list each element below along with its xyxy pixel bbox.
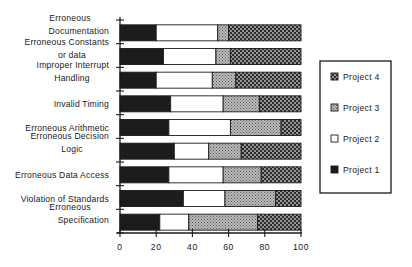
bar-row xyxy=(120,143,301,159)
legend-label: Project 4 xyxy=(343,72,380,82)
legend-label: Project 3 xyxy=(343,103,380,113)
bar-segment-project-3 xyxy=(230,120,281,136)
bar-segment-project-2 xyxy=(183,191,225,207)
bar-segment-project-4 xyxy=(230,49,301,65)
bar-segment-project-4 xyxy=(229,25,301,41)
x-tick-label: 60 xyxy=(223,242,234,252)
category-label: Handling xyxy=(54,73,90,83)
x-tick-label: 100 xyxy=(293,242,309,252)
x-tick-label: 40 xyxy=(187,242,198,252)
bar-segment-project-1 xyxy=(120,191,183,207)
bar-segment-project-1 xyxy=(120,96,171,112)
bar-row xyxy=(120,25,301,41)
bar-segment-project-3 xyxy=(209,143,242,159)
bar-row xyxy=(120,120,301,136)
category-label: Specification xyxy=(58,215,109,225)
category-label: Erroneous Constants xyxy=(24,37,109,47)
x-tick-label: 80 xyxy=(259,242,270,252)
bar-segment-project-3 xyxy=(225,191,276,207)
bar-segment-project-1 xyxy=(120,25,156,41)
category-label: Erroneous xyxy=(49,202,90,212)
bar-segment-project-1 xyxy=(120,72,156,88)
bar-segment-project-4 xyxy=(241,143,301,159)
bar-segment-project-2 xyxy=(156,72,212,88)
bar-segment-project-3 xyxy=(216,49,230,65)
bar-segment-project-2 xyxy=(169,120,231,136)
bar-segment-project-3 xyxy=(218,25,229,41)
stacked-bar-chart: ErroneousDocumentationErroneous Constant… xyxy=(0,0,412,267)
bar-segment-project-1 xyxy=(120,214,160,230)
legend-swatch-project-3 xyxy=(331,104,338,111)
bar-row xyxy=(120,214,301,230)
bar-segment-project-4 xyxy=(258,214,301,230)
bar-segment-project-1 xyxy=(120,120,169,136)
category-label: Erroneous xyxy=(49,13,90,23)
bar-segment-project-4 xyxy=(281,120,301,136)
legend-swatch-project-1 xyxy=(331,166,338,173)
category-label: Erroneous Data Access xyxy=(15,170,109,180)
bar-segment-project-2 xyxy=(156,25,218,41)
category-label: Logic xyxy=(61,144,83,154)
bar-segment-project-2 xyxy=(171,96,223,112)
bar-segment-project-2 xyxy=(169,167,223,183)
bar-segment-project-4 xyxy=(261,167,301,183)
bar-row xyxy=(120,167,301,183)
category-label: Invalid Timing xyxy=(54,99,109,109)
bar-segment-project-3 xyxy=(223,167,261,183)
category-label: Documentation xyxy=(49,26,109,36)
bar-row xyxy=(120,96,301,112)
legend-swatch-project-4 xyxy=(331,73,338,80)
legend-label: Project 2 xyxy=(343,134,380,144)
bar-segment-project-3 xyxy=(212,72,236,88)
bar-segment-project-4 xyxy=(276,191,301,207)
category-label: Erroneous Decision xyxy=(30,131,109,141)
bar-segment-project-4 xyxy=(259,96,301,112)
bar-row xyxy=(120,191,301,207)
bar-segment-project-4 xyxy=(236,72,301,88)
bar-segment-project-2 xyxy=(160,214,189,230)
bar-segment-project-3 xyxy=(223,96,259,112)
bar-row xyxy=(120,49,301,65)
bar-segment-project-1 xyxy=(120,143,174,159)
bar-segment-project-3 xyxy=(189,214,258,230)
legend-swatch-project-2 xyxy=(331,135,338,142)
bar-segment-project-2 xyxy=(174,143,208,159)
category-label: Improper Interrupt xyxy=(37,60,110,70)
bar-row xyxy=(120,72,301,88)
x-tick-label: 20 xyxy=(151,242,162,252)
legend-label: Project 1 xyxy=(343,165,380,175)
bar-segment-project-1 xyxy=(120,167,169,183)
category-label: or data xyxy=(58,50,86,60)
bar-segment-project-2 xyxy=(163,49,215,65)
bar-segment-project-1 xyxy=(120,49,163,65)
x-tick-label: 0 xyxy=(117,242,122,252)
plot-area: ErroneousDocumentationErroneous Constant… xyxy=(15,13,309,252)
legend: Project 4Project 3Project 2Project 1 xyxy=(320,61,391,193)
